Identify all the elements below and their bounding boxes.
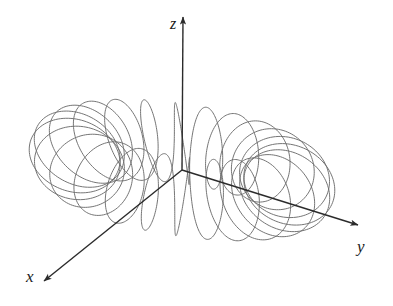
plot-background xyxy=(0,0,393,306)
z-axis-line xyxy=(182,17,183,170)
figure-container: x y z xyxy=(0,0,393,306)
z-axis-label: z xyxy=(169,15,177,32)
x-axis-label: x xyxy=(25,267,34,286)
toroidal-spiral-plot: x y z xyxy=(0,0,393,306)
y-axis-label: y xyxy=(355,237,365,256)
